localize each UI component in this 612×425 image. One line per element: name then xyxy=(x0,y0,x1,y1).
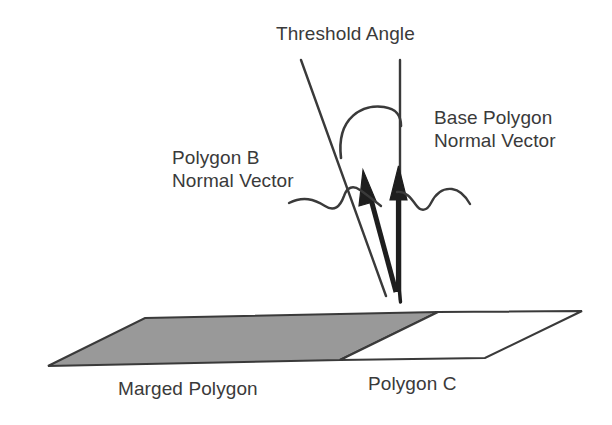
label-base-polygon-line1: Base Polygon xyxy=(434,107,552,128)
threshold-angle-arc xyxy=(340,107,401,158)
label-marged-polygon: Marged Polygon xyxy=(118,377,258,400)
label-base-polygon-normal-vector: Base PolygonNormal Vector xyxy=(434,106,556,152)
label-polygon-b-normal-vector: Polygon BNormal Vector xyxy=(172,146,294,192)
label-polygon-b-line2: Normal Vector xyxy=(172,170,294,191)
figure-canvas: Threshold Angle Base PolygonNormal Vecto… xyxy=(0,0,612,425)
label-base-polygon-line2: Normal Vector xyxy=(434,130,556,151)
threshold-angle-leader-diagonal xyxy=(301,60,386,296)
base-polygon-leader-squiggle xyxy=(397,189,470,210)
diagram-svg xyxy=(0,0,612,425)
label-polygon-c: Polygon C xyxy=(368,372,457,395)
label-polygon-b-line1: Polygon B xyxy=(172,147,260,168)
label-threshold-angle: Threshold Angle xyxy=(276,22,415,45)
